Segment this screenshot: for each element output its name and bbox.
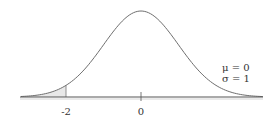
tick-label-zero: 0 <box>138 106 144 117</box>
normal-curve-chart: -2 0 μ = 0 σ = 1 <box>0 0 274 127</box>
mu-label: μ = 0 <box>222 62 250 73</box>
tick-label-neg2: -2 <box>61 106 71 117</box>
shaded-left-tail <box>21 85 66 97</box>
sigma-label: σ = 1 <box>222 73 250 84</box>
